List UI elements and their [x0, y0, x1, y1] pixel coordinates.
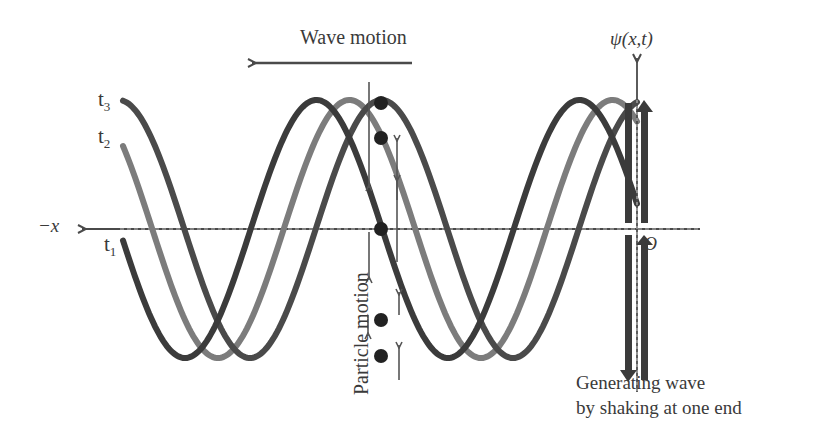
caption-line-1: Generating wave: [576, 370, 742, 395]
particle-dot: [374, 313, 388, 327]
curve-label-t1: t1: [104, 232, 116, 260]
generator-caption: Generating wave by shaking at one end: [576, 370, 742, 420]
particle-dot: [374, 349, 388, 363]
wave-diagram: Wave motion ψ(x,t) −x O t3 t2 t1 Particl…: [0, 0, 819, 442]
wave-motion-label: Wave motion: [300, 26, 407, 49]
particle-dot: [374, 222, 388, 236]
negative-x-label: −x: [38, 215, 59, 237]
origin-label: O: [644, 234, 657, 255]
particle-dot: [374, 131, 388, 145]
curve-label-t2: t2: [98, 124, 110, 152]
particle-dot: [374, 96, 388, 110]
psi-axis-label: ψ(x,t): [610, 28, 653, 50]
particle-motion-label: Particle motion: [350, 272, 373, 395]
caption-line-2: by shaking at one end: [576, 395, 742, 420]
curve-label-t3: t3: [98, 87, 110, 115]
particles: [374, 96, 388, 363]
